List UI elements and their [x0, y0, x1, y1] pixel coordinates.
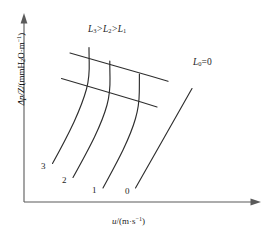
pressure-drop-chart: L3>L2>L1 L0=0 3 2 1 0 Δp/Z/(mmH2O·m−1) u… [0, 0, 268, 238]
y-axis-unit-tail: O·m [16, 42, 26, 59]
ordering-l1-sub: 1 [123, 27, 126, 34]
curve-2 [73, 61, 110, 178]
curve-label-2: 2 [62, 176, 67, 185]
liquid-load-ordering-annotation: L3>L2>L1 [88, 25, 126, 35]
flooding-locus-line [70, 53, 168, 81]
y-axis-slash: /( [16, 82, 26, 88]
y-axis-unit-sup: −1 [16, 36, 22, 43]
x-axis-unit: m·s [122, 216, 136, 226]
dry-packing-annotation: L0=0 [193, 58, 212, 68]
curve-label-1: 1 [92, 186, 97, 195]
x-axis-arrow-icon [251, 199, 262, 206]
curve-1 [103, 74, 139, 188]
y-axis-close-paren: ) [16, 33, 26, 36]
y-axis-deltap: Δp/Z [16, 88, 26, 105]
dry-l-equals-zero: =0 [202, 57, 212, 67]
loading-locus-line [62, 79, 158, 108]
y-axis-unit-head: mmH [16, 62, 26, 83]
y-axis-title: Δp/Z/(mmH2O·m−1) [10, 4, 24, 134]
x-axis-title: u/(m·s−1) [112, 216, 145, 226]
curve-label-3: 3 [41, 162, 46, 171]
x-axis-close-paren: ) [142, 216, 145, 226]
curve-label-0: 0 [125, 187, 130, 196]
curve-3 [53, 48, 90, 164]
chart-canvas [0, 0, 268, 238]
y-axis-unit-sub: 2 [20, 59, 26, 62]
